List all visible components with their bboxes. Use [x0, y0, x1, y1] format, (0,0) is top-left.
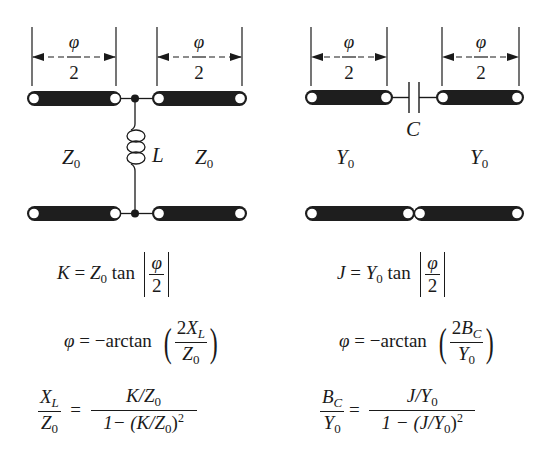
svg-text:2: 2	[69, 62, 79, 83]
capacitor-symbol	[392, 82, 437, 113]
inductor-label: L	[152, 143, 164, 168]
svg-text:2: 2	[344, 62, 354, 83]
left-bottom-line-1	[27, 206, 121, 221]
inductor-symbol	[127, 98, 145, 213]
left-bottom-junction	[131, 210, 139, 218]
equation-k-inverter: K = Z0 tan φ2	[57, 252, 169, 297]
left-impedance-label: Z0	[62, 145, 80, 172]
svg-text:2: 2	[476, 62, 486, 83]
left-admittance-label: Y0	[336, 145, 354, 172]
equation-phi-left: φ = −arctan (2XLZ0)	[64, 317, 220, 368]
svg-text:2: 2	[194, 62, 204, 83]
svg-text:φ: φ	[476, 31, 487, 52]
equation-bc-ratio: BCY0 = J/Y01 − (J/Y0)2	[320, 385, 475, 437]
left-top-line-1	[27, 91, 121, 106]
right-top-line-1	[305, 90, 393, 105]
equation-phi-right: φ = −arctan (2BCY0)	[339, 317, 497, 368]
svg-text:φ: φ	[344, 31, 355, 52]
left-bottom-line-2	[152, 206, 247, 221]
svg-text:φ: φ	[69, 31, 80, 52]
right-top-line-2	[436, 90, 524, 105]
equation-xl-ratio: XLZ0 = K/Z01− (K/Z0)2	[38, 385, 197, 437]
equation-j-inverter: J = Y0 tan φ2	[337, 252, 445, 297]
capacitor-label: C	[406, 117, 420, 142]
left-top-line-2	[152, 91, 247, 106]
right-admittance-label: Y0	[470, 145, 488, 172]
svg-text:φ: φ	[194, 31, 205, 52]
right-impedance-label: Z0	[195, 145, 213, 172]
right-bottom-line	[305, 206, 524, 221]
